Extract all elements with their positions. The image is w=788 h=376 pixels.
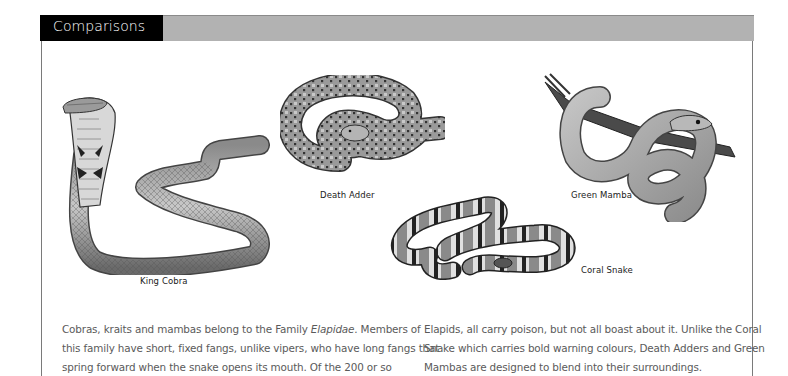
text-segment: . Members of	[354, 323, 420, 335]
text-segment: Cobras, kraits and mambas belong to the …	[62, 323, 311, 335]
body-text-column-2: Elapids, all carry poison, but not all b…	[424, 320, 765, 376]
green-mamba-caption: Green Mamba	[571, 190, 632, 200]
death-adder-illustration	[280, 75, 445, 180]
king-cobra-illustration	[55, 95, 270, 275]
section-title: Comparisons	[53, 18, 145, 34]
body-text-column-1: Cobras, kraits and mambas belong to the …	[62, 320, 439, 376]
death-adder-caption: Death Adder	[320, 190, 375, 200]
body-line: Snake which carries bold warning colours…	[424, 339, 765, 358]
body-line: Elapids, all carry poison, but not all b…	[424, 320, 765, 339]
family-name-italic: Elapidae	[311, 323, 354, 335]
coral-snake-illustration	[385, 195, 580, 280]
coral-snake-caption: Coral Snake	[581, 265, 633, 275]
body-line: spring forward when the snake opens its …	[62, 358, 439, 376]
king-cobra-caption: King Cobra	[140, 276, 188, 286]
body-line: Cobras, kraits and mambas belong to the …	[62, 320, 439, 339]
body-line: Mambas are designed to blend into their …	[424, 358, 765, 376]
body-line: this family have short, fixed fangs, unl…	[62, 339, 439, 358]
section-header-tab: Comparisons	[40, 15, 163, 41]
